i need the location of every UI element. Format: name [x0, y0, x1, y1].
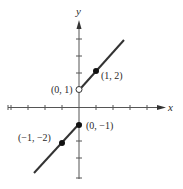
- function-graph: x y (1, 2) (0, 1) (0, −1) (−1, −2): [0, 0, 183, 189]
- point-1-2: [93, 68, 99, 74]
- x-axis-label: x: [167, 101, 173, 113]
- y-axis-label: y: [75, 5, 81, 17]
- point-0-1-open: [76, 87, 82, 93]
- point-neg1-neg2: [59, 140, 65, 146]
- label-point-neg1-neg2: (−1, −2): [18, 132, 51, 144]
- point-0-neg1: [76, 122, 82, 128]
- label-point-0-1: (0, 1): [51, 84, 73, 96]
- x-axis-arrow-icon: [157, 105, 166, 110]
- y-axis-arrow-icon: [77, 20, 82, 29]
- x-axis: x: [8, 101, 173, 113]
- label-point-0-neg1: (0, −1): [86, 120, 113, 132]
- label-point-1-2: (1, 2): [101, 70, 123, 82]
